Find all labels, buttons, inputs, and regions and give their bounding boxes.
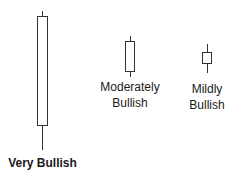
label-line: Very Bullish (8, 156, 77, 170)
candle-label: Moderately Bullish (90, 79, 170, 111)
lower-wick (42, 126, 43, 150)
candle-body (37, 16, 48, 126)
upper-wick (207, 44, 208, 52)
label-line: Bullish (90, 95, 170, 111)
candle-body (125, 41, 135, 72)
label-line: Moderately (90, 79, 170, 95)
candle-label: Mildly Bullish (182, 81, 232, 113)
label-line: Mildly (182, 81, 232, 97)
candle-label: Very Bullish (0, 155, 85, 171)
candle-body (202, 52, 212, 64)
lower-wick (130, 72, 131, 77)
label-line: Bullish (182, 97, 232, 113)
lower-wick (207, 64, 208, 73)
